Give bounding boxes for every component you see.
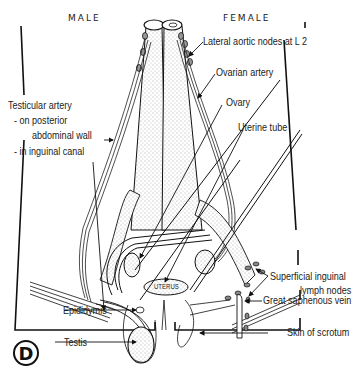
great-saphenous-vein	[237, 295, 242, 338]
left-ovary	[124, 253, 140, 277]
label-lateral-aortic-nodes: Lateral aortic nodes at L 2	[203, 36, 307, 47]
label-superficial-inguinal-1: Superficial inguinal	[270, 271, 346, 282]
male-header: MALE	[68, 13, 101, 23]
label-testicular-artery: Testicular artery	[8, 100, 72, 111]
label-epididymis: Epididymis	[63, 305, 107, 316]
label-uterine-tube: Uterine tube	[238, 122, 287, 133]
epididymis-shape	[136, 307, 144, 313]
labial-lines	[178, 300, 235, 347]
label-testis: Testis	[64, 337, 87, 348]
label-abdominal-wall: abdominal wall	[32, 130, 92, 141]
label-uterus: UTERUS	[154, 283, 179, 291]
label-ovary: Ovary	[226, 97, 250, 108]
midline-raphe	[162, 300, 166, 330]
label-great-saphenous-vein: Great saphenous vein	[263, 295, 351, 306]
label-on-posterior: - on posterior	[14, 115, 67, 126]
right-ovary	[195, 250, 215, 274]
label-ovarian-artery: Ovarian artery	[216, 67, 273, 78]
panel-letter-badge: D	[13, 340, 39, 366]
female-header: FEMALE	[223, 13, 271, 23]
label-skin-of-scrotum: Skin of scrotum	[287, 327, 349, 338]
label-in-inguinal-canal: - in inguinal canal	[14, 146, 84, 157]
panel-letter: D	[19, 343, 34, 364]
